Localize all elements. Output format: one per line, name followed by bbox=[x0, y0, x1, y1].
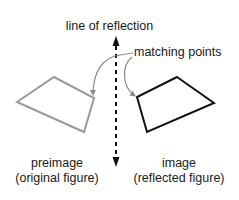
preimage-caption: preimage (original figure) bbox=[0, 156, 114, 186]
image-quadrilateral bbox=[137, 77, 214, 132]
matching-points-callout bbox=[93, 53, 135, 96]
preimage-label: preimage bbox=[0, 156, 114, 171]
curved-arrow-to-image bbox=[124, 57, 135, 96]
line-of-reflection-label: line of reflection bbox=[0, 19, 219, 34]
image-caption: image (reflected figure) bbox=[120, 156, 238, 186]
image-label: image bbox=[120, 156, 238, 171]
preimage-quadrilateral bbox=[17, 77, 94, 132]
image-sublabel: (reflected figure) bbox=[120, 171, 238, 186]
preimage-sublabel: (original figure) bbox=[0, 171, 114, 186]
reflection-diagram: line of reflection matching points preim… bbox=[0, 0, 239, 200]
leader-line bbox=[120, 53, 133, 55]
matching-points-label: matching points bbox=[134, 45, 222, 60]
arrow-up-icon bbox=[113, 36, 120, 46]
